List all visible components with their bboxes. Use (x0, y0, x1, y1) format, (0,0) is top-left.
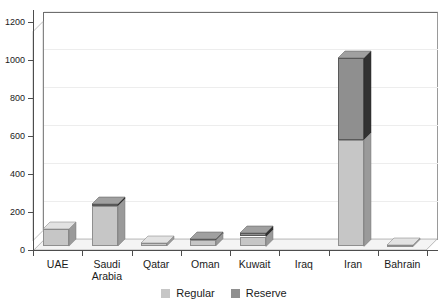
y-axis-tick (28, 136, 33, 137)
bar-qatar (141, 12, 167, 250)
x-axis-tick (279, 251, 280, 256)
x-axis-tick (378, 251, 379, 256)
y-axis-tick-label: 600 (0, 131, 25, 141)
bar-face-side (118, 199, 125, 239)
bar-face-front (240, 237, 266, 247)
y-axis-tick (28, 60, 33, 61)
bar-bahrain (387, 12, 413, 250)
bar-face-top (43, 222, 76, 229)
bar-uae (43, 12, 69, 250)
x-axis-tick (181, 251, 182, 256)
chart-legend: RegularReserve (0, 287, 448, 299)
bar-face-top (141, 236, 174, 243)
legend-item-regular[interactable]: Regular (161, 287, 215, 299)
bar-face-side (364, 51, 371, 133)
bar-face-side (266, 230, 273, 240)
bar-segment-regular (387, 245, 413, 247)
bar-segment-regular (92, 206, 118, 246)
bar-face-front (338, 58, 364, 140)
x-axis-tick (427, 251, 428, 256)
bar-face-front (387, 245, 413, 247)
legend-swatch-reserve (231, 289, 240, 298)
legend-item-reserve[interactable]: Reserve (231, 287, 287, 299)
y-axis-tick-label: 1200 (0, 17, 25, 27)
bar-oman (190, 12, 216, 250)
x-axis-tick (230, 251, 231, 256)
bar-saudi-arabia (92, 12, 118, 250)
y-axis-tick (28, 22, 33, 23)
bar-segment-regular (141, 243, 167, 246)
bar-segment-regular (190, 240, 216, 246)
x-axis-tick (132, 251, 133, 256)
bar-face-front (92, 206, 118, 246)
bar-face-front (43, 229, 69, 246)
x-axis-tick (33, 251, 34, 256)
bar-face-front (190, 240, 216, 246)
bar-face-top (338, 51, 371, 58)
y-axis-tick-label: 400 (0, 169, 25, 179)
bar-face-side (216, 233, 223, 239)
bar-segment-regular (240, 237, 266, 247)
y-axis-tick-label: 800 (0, 93, 25, 103)
y-axis-tick (28, 212, 33, 213)
y-axis-tick-label: 0 (0, 245, 25, 255)
x-axis-tick (82, 251, 83, 256)
legend-label-regular: Regular (176, 287, 215, 299)
bar-face-front (338, 140, 364, 246)
legend-label-reserve: Reserve (246, 287, 287, 299)
bar-kuwait (240, 12, 266, 250)
chart-container: 020040060080010001200 UAESaudi ArabiaQat… (0, 0, 448, 307)
bar-face-side (364, 133, 371, 239)
x-axis-tick (329, 251, 330, 256)
bar-segment-reserve (338, 58, 364, 140)
y-axis-tick (28, 174, 33, 175)
y-axis-tick-label: 1000 (0, 55, 25, 65)
x-axis-label-bahrain: Bahrain (368, 259, 437, 271)
y-axis (33, 10, 34, 251)
bar-face-front (141, 243, 167, 246)
y-axis-tick-label: 200 (0, 207, 25, 217)
bar-face-top (387, 238, 420, 245)
bar-segment-regular (338, 140, 364, 246)
bar-segment-regular (43, 229, 69, 246)
y-axis-tick (28, 98, 33, 99)
bar-iran (338, 12, 364, 250)
legend-swatch-regular (161, 289, 170, 298)
plot-area (33, 12, 438, 250)
